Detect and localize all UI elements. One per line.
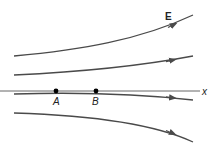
field-line-2 [14,56,193,75]
field-line-4 [14,113,193,142]
point-b [94,89,99,94]
point-b-label: B [92,96,99,107]
field-label-e: E [165,11,172,22]
arrow-icon [166,97,173,98]
point-a-label: A [52,96,60,107]
x-axis-label: x [201,86,208,97]
point-a [54,89,59,94]
electric-field-diagram: x E A B [0,0,221,150]
